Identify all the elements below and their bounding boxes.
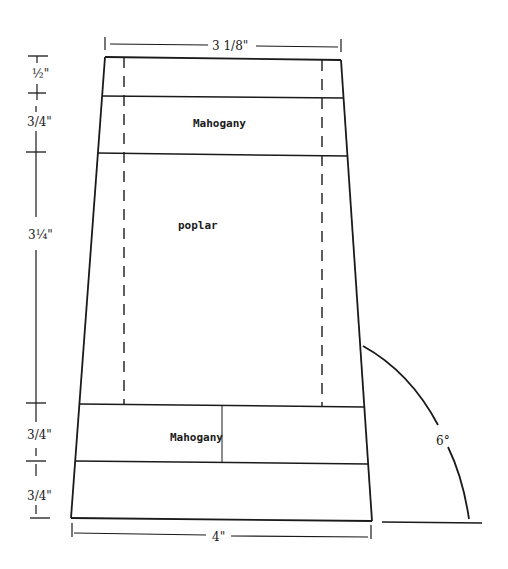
- angle-label: 6°: [436, 434, 450, 448]
- height-label-top-strip: ½": [32, 67, 49, 81]
- block-diagram: Mahogany poplar Mahogany 3 1/8" 4": [0, 0, 508, 569]
- upper-mahogany-label: Mahogany: [193, 117, 246, 130]
- angle-indicator: 6°: [363, 346, 482, 523]
- height-label-lower-mahogany: 3/4": [27, 428, 52, 442]
- dashed-guides: [124, 57, 322, 406]
- top-width-dimension: 3 1/8": [105, 37, 341, 53]
- top-width-label: 3 1/8": [212, 39, 248, 53]
- height-label-upper-mahogany: 3/4": [27, 115, 52, 129]
- height-dimensions: ½" 3/4" 3¼" 3/4" 3/4": [26, 56, 53, 518]
- lower-mahogany-label: Mahogany: [170, 431, 223, 444]
- bottom-width-dimension: 4": [72, 523, 371, 544]
- poplar-label: poplar: [178, 219, 218, 232]
- height-label-base: 3/4": [27, 489, 52, 503]
- bottom-width-label: 4": [212, 530, 225, 544]
- height-label-poplar: 3¼": [28, 228, 53, 242]
